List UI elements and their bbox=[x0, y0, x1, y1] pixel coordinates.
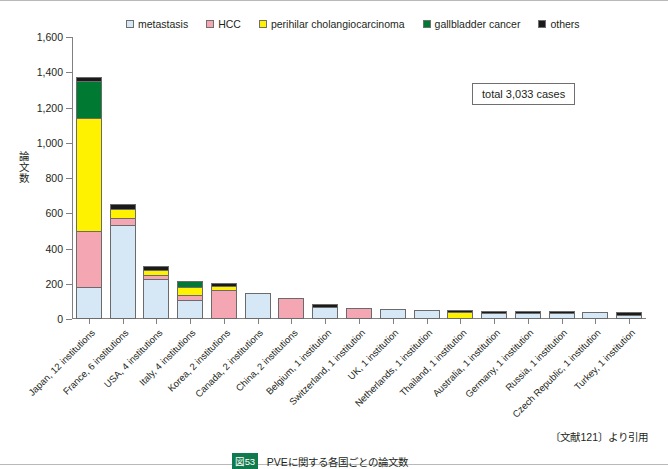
legend-label: others bbox=[550, 18, 579, 30]
legend-label: perihilar cholangiocarcinoma bbox=[271, 18, 405, 30]
bar-slot bbox=[308, 37, 342, 319]
x-axis-tick bbox=[156, 319, 157, 324]
stacked-bar[interactable] bbox=[312, 304, 338, 319]
legend-swatch-icon bbox=[423, 20, 431, 28]
chart-legend: metastasisHCCperihilar cholangiocarcinom… bbox=[126, 18, 580, 30]
y-axis-tick-label: 1,400 bbox=[37, 66, 63, 78]
bar-slot bbox=[106, 37, 140, 319]
stacked-bar[interactable] bbox=[414, 310, 440, 319]
stacked-bar[interactable] bbox=[481, 311, 507, 319]
x-axis-tick bbox=[427, 319, 428, 324]
stacked-bar[interactable] bbox=[346, 308, 372, 319]
plot-area: 02004006008001,0001,2001,4001,600 bbox=[72, 37, 646, 319]
stacked-bar[interactable] bbox=[616, 312, 642, 319]
bar-segment-hcc bbox=[212, 291, 236, 318]
bar-slot bbox=[207, 37, 241, 319]
bar-segment-perihilar bbox=[77, 119, 101, 233]
y-axis-tick bbox=[66, 319, 72, 320]
legend-item-gallbladder: gallbladder cancer bbox=[423, 18, 521, 30]
bar-segment-perihilar bbox=[111, 210, 135, 219]
x-axis-tick bbox=[494, 319, 495, 324]
bar-segment-perihilar bbox=[178, 288, 202, 296]
bar-segment-metastasis bbox=[482, 314, 506, 318]
legend-item-hcc: HCC bbox=[206, 18, 241, 30]
y-axis-tick-label: 0 bbox=[57, 313, 63, 325]
legend-label: metastasis bbox=[138, 18, 188, 30]
stacked-bar[interactable] bbox=[549, 311, 575, 319]
y-axis-tick-label: 1,200 bbox=[37, 102, 63, 114]
y-axis-tick-label: 600 bbox=[45, 207, 63, 219]
bar-slot bbox=[140, 37, 174, 319]
stacked-bar[interactable] bbox=[582, 312, 608, 319]
bar-segment-metastasis bbox=[550, 314, 574, 318]
total-cases-annotation: total 3,033 cases bbox=[472, 83, 575, 105]
stacked-bar[interactable] bbox=[245, 293, 271, 319]
y-axis-tick bbox=[66, 178, 72, 179]
bar-slot bbox=[511, 37, 545, 319]
x-axis-label: USA, 4 institutions bbox=[102, 327, 165, 390]
x-axis-tick bbox=[595, 319, 596, 324]
bar-segment-metastasis bbox=[415, 311, 439, 318]
x-axis-label: Korea, 2 institutions bbox=[165, 327, 232, 394]
figure-caption: 図53 PVEに関する各国ごとの論文数 bbox=[232, 453, 408, 469]
legend-item-metastasis: metastasis bbox=[126, 18, 188, 30]
bar-slot bbox=[376, 37, 410, 319]
y-axis-tick bbox=[66, 108, 72, 109]
y-axis-tick-label: 400 bbox=[45, 243, 63, 255]
legend-swatch-icon bbox=[206, 20, 214, 28]
bar-segment-hcc bbox=[111, 219, 135, 227]
x-axis-label: Turkey, 1 institution bbox=[572, 327, 637, 392]
bar-segment-metastasis bbox=[617, 316, 641, 318]
x-axis-tick bbox=[562, 319, 563, 324]
bar-segment-metastasis bbox=[381, 310, 405, 318]
stacked-bar[interactable] bbox=[447, 310, 473, 319]
y-axis-tick-label: 1,600 bbox=[37, 31, 63, 43]
bar-segment-metastasis bbox=[111, 226, 135, 318]
bar-segment-metastasis bbox=[313, 308, 337, 318]
x-axis-label: China, 2 institutions bbox=[233, 327, 299, 393]
bar-segment-hcc bbox=[347, 309, 371, 318]
y-axis-tick bbox=[66, 249, 72, 250]
citation-text: 〔文献121〕より引用 bbox=[550, 429, 648, 444]
bar-segment-metastasis bbox=[516, 314, 540, 318]
bar-segment-hcc bbox=[279, 299, 303, 318]
stacked-bar[interactable] bbox=[278, 298, 304, 319]
bar-slot bbox=[410, 37, 444, 319]
stacked-bar[interactable] bbox=[76, 77, 102, 320]
y-axis-tick bbox=[66, 143, 72, 144]
stacked-bar[interactable] bbox=[211, 283, 237, 319]
bar-slot bbox=[578, 37, 612, 319]
x-axis-tick bbox=[629, 319, 630, 324]
legend-item-others: others bbox=[538, 18, 579, 30]
bar-group bbox=[72, 37, 646, 319]
bar-segment-perihilar bbox=[448, 313, 472, 318]
y-axis-tick bbox=[66, 37, 72, 38]
bar-slot bbox=[173, 37, 207, 319]
bar-segment-metastasis bbox=[178, 301, 202, 318]
stacked-bar[interactable] bbox=[515, 311, 541, 319]
y-axis-tick-label: 1,000 bbox=[37, 137, 63, 149]
legend-item-perihilar: perihilar cholangiocarcinoma bbox=[259, 18, 405, 30]
stacked-bar[interactable] bbox=[380, 309, 406, 319]
stacked-bar[interactable] bbox=[110, 204, 136, 319]
stacked-bar[interactable] bbox=[177, 281, 203, 319]
bar-slot bbox=[241, 37, 275, 319]
bar-slot bbox=[443, 37, 477, 319]
legend-swatch-icon bbox=[259, 20, 267, 28]
bar-slot bbox=[72, 37, 106, 319]
bar-slot bbox=[612, 37, 646, 319]
y-axis-tick-label: 200 bbox=[45, 278, 63, 290]
stacked-bar[interactable] bbox=[143, 266, 169, 319]
x-axis-tick bbox=[359, 319, 360, 324]
bar-segment-metastasis bbox=[246, 294, 270, 318]
y-axis-tick bbox=[66, 284, 72, 285]
bar-segment-gallbladder bbox=[77, 82, 101, 118]
bar-slot bbox=[342, 37, 376, 319]
y-axis-tick bbox=[66, 213, 72, 214]
y-axis-tick bbox=[66, 72, 72, 73]
x-axis-label: Belgium, 1 institution bbox=[263, 327, 333, 397]
bar-segment-metastasis bbox=[144, 280, 168, 318]
x-axis-tick bbox=[291, 319, 292, 324]
bar-slot bbox=[275, 37, 309, 319]
